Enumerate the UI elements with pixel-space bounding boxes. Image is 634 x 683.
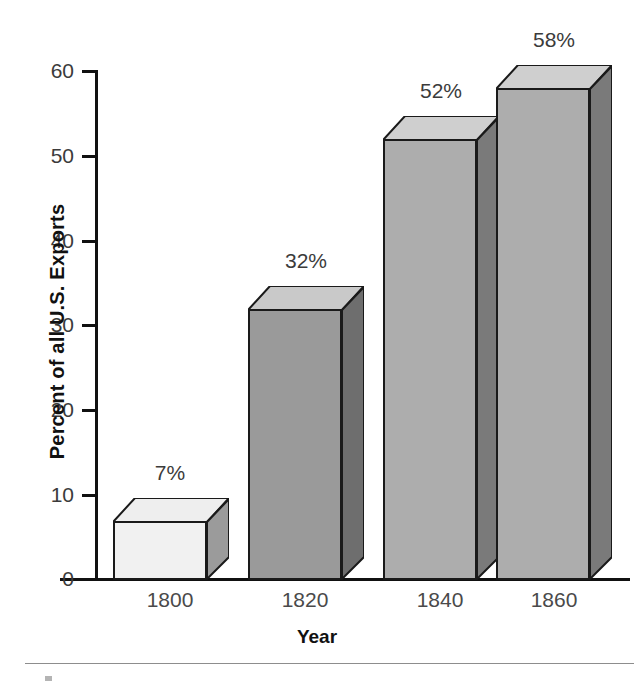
bar-label-1860: 58% <box>506 28 602 52</box>
y-tick-label-50: 50 <box>30 145 74 166</box>
y-tick-mark-30 <box>82 324 95 327</box>
bar-1800-side-face <box>205 498 229 580</box>
bar-1860-front-face <box>496 88 590 580</box>
y-tick-mark-40 <box>82 240 95 243</box>
footer-mark <box>45 676 52 681</box>
chart-figure: 60 50 40 30 20 10 0 Percent of all U.S. … <box>0 0 634 683</box>
bar-label-1800: 7% <box>130 461 210 485</box>
x-axis-title: Year <box>0 626 634 648</box>
x-tick-label-1840: 1840 <box>380 588 500 612</box>
footer-divider <box>25 663 634 664</box>
y-tick-label-10: 10 <box>30 484 74 505</box>
bar-1840-front-face <box>383 139 477 580</box>
y-tick-mark-10 <box>82 494 95 497</box>
bar-1840[interactable] <box>383 116 499 580</box>
y-axis-line <box>95 70 98 581</box>
y-tick-mark-60 <box>82 70 95 73</box>
x-tick-label-1820: 1820 <box>245 588 365 612</box>
x-tick-label-1800: 1800 <box>110 588 230 612</box>
plot-area: 60 50 40 30 20 10 0 Percent of all U.S. … <box>0 0 634 683</box>
bar-label-1840: 52% <box>393 79 489 103</box>
y-axis-title: Percent of all U.S. Exports <box>46 192 69 472</box>
bar-1800[interactable] <box>113 498 229 580</box>
bar-1860[interactable] <box>496 65 612 580</box>
y-tick-mark-50 <box>82 155 95 158</box>
bar-1860-side-face <box>588 65 612 580</box>
y-tick-mark-0 <box>82 578 95 581</box>
y-tick-label-0: 0 <box>30 568 74 589</box>
y-tick-label-60: 60 <box>30 60 74 81</box>
bar-1820-side-face <box>340 286 364 580</box>
bar-1820-front-face <box>248 309 342 580</box>
x-tick-label-1860: 1860 <box>494 588 614 612</box>
y-tick-mark-20 <box>82 409 95 412</box>
bar-1800-front-face <box>113 521 207 580</box>
bar-1820[interactable] <box>248 286 364 580</box>
bar-label-1820: 32% <box>258 249 354 273</box>
